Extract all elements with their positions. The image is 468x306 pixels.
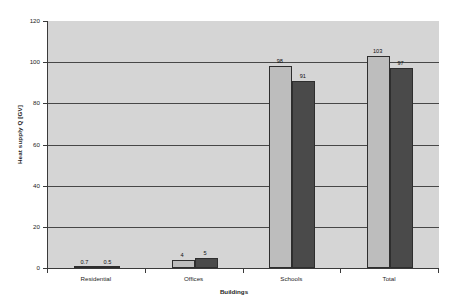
y-tick-label: 80 <box>16 99 40 106</box>
bar-value-label: 4 <box>181 252 184 258</box>
bar <box>172 260 195 268</box>
bar-value-label: 0.5 <box>103 259 111 265</box>
bar <box>97 266 120 268</box>
x-tick-mark <box>145 269 146 273</box>
x-tick-mark <box>438 269 439 273</box>
bar <box>367 56 390 268</box>
bar <box>74 266 97 268</box>
y-axis-title-label: Heat supply Q [GV] <box>17 104 24 163</box>
bar-value-label: 0.7 <box>80 259 88 265</box>
y-tick-label: 60 <box>16 141 40 148</box>
category-label: Schools <box>280 275 302 282</box>
x-axis-title: Buildings <box>0 288 468 295</box>
bar <box>292 81 315 268</box>
plot-area <box>47 21 439 269</box>
y-tick-label: 20 <box>16 223 40 230</box>
chart-figure: Heat supply Q [GV] 020406080100120 Resid… <box>0 0 468 306</box>
bar <box>390 68 413 268</box>
y-tick-label: 0 <box>16 264 40 271</box>
bar-value-label: 97 <box>398 60 404 66</box>
category-label: Total <box>383 275 396 282</box>
y-tick-label: 120 <box>16 17 40 24</box>
y-tick-label: 100 <box>16 58 40 65</box>
x-tick-mark <box>340 269 341 273</box>
x-tick-mark <box>47 269 48 273</box>
bar-value-label: 91 <box>300 73 306 79</box>
bar <box>195 258 218 268</box>
bar-value-label: 98 <box>277 58 283 64</box>
bar-value-label: 103 <box>373 48 382 54</box>
x-tick-mark <box>243 269 244 273</box>
y-tick-label: 40 <box>16 182 40 189</box>
category-label: Residential <box>81 275 112 282</box>
bar <box>269 66 292 268</box>
bar-value-label: 5 <box>204 250 207 256</box>
category-label: Offices <box>184 275 203 282</box>
